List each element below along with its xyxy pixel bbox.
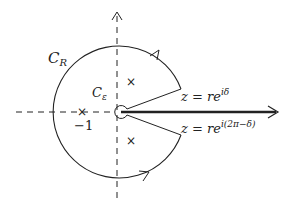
upper-edge-line xyxy=(127,89,181,109)
keyhole-contour-diagram: × × × CR Cε −1 z = reiδ z = rei(2π−δ) xyxy=(0,0,297,202)
upper-edge-label: z = reiδ xyxy=(180,87,229,104)
upper-direction-arrow-icon xyxy=(150,50,159,60)
minus-one-label: −1 xyxy=(74,118,93,133)
lower-edge-label: z = rei(2π−δ) xyxy=(180,119,256,136)
outer-contour-label-sub: R xyxy=(58,57,67,68)
upper-edge-label-base: z = re xyxy=(180,89,221,104)
inner-contour-label-main: C xyxy=(92,85,102,100)
inner-contour-label-sub: ε xyxy=(102,92,107,102)
lower-edge-line xyxy=(127,115,181,135)
pole-minus-one-marker: × xyxy=(77,105,87,119)
lower-direction-arrow-icon xyxy=(139,171,149,181)
upper-edge-label-exp: iδ xyxy=(221,87,229,97)
outer-contour-label: CR xyxy=(48,49,67,68)
inner-contour-label: Cε xyxy=(92,85,107,102)
pole-lower-marker: × xyxy=(126,134,136,148)
lower-edge-label-exp: i(2π−δ) xyxy=(221,119,256,129)
lower-edge-label-base: z = re xyxy=(180,121,221,136)
outer-contour-label-main: C xyxy=(48,49,60,67)
pole-upper-marker: × xyxy=(126,75,136,89)
